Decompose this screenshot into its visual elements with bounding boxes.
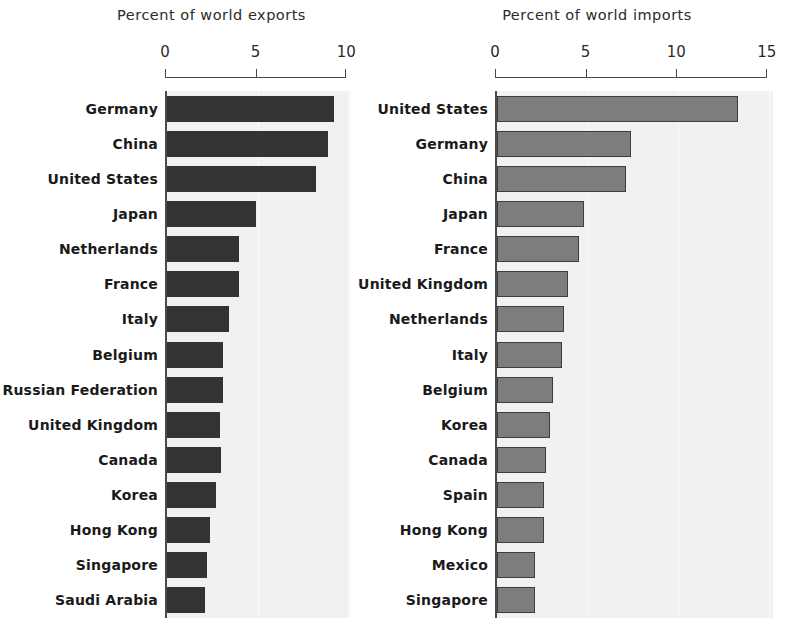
- bar-row: Singapore: [497, 587, 773, 613]
- imports-tick-label-10: 10: [667, 43, 686, 61]
- category-label: Russian Federation: [2, 382, 158, 398]
- exports-x-axis: 0510: [165, 69, 346, 91]
- category-label: France: [104, 276, 158, 292]
- bar-row: Italy: [167, 306, 350, 332]
- bar-row: France: [167, 271, 350, 297]
- imports-plot-area: United StatesGermanyChinaJapanFranceUnit…: [495, 91, 773, 618]
- imports-tick-label-15: 15: [757, 43, 776, 61]
- category-label: Belgium: [92, 347, 158, 363]
- category-label: Korea: [111, 487, 158, 503]
- imports-axis-line: [495, 77, 767, 78]
- bar-row: China: [167, 131, 350, 157]
- bar[interactable]: [167, 517, 210, 543]
- bar[interactable]: [497, 96, 738, 122]
- bar-row: United States: [167, 166, 350, 192]
- exports-chart-title: Percent of world exports: [0, 7, 395, 23]
- bar-row: Japan: [167, 201, 350, 227]
- category-label: Japan: [443, 206, 488, 222]
- bar-row: United Kingdom: [167, 412, 350, 438]
- bar[interactable]: [497, 412, 550, 438]
- bar[interactable]: [167, 306, 229, 332]
- bar[interactable]: [497, 236, 579, 262]
- exports-tick-mark-0: [165, 69, 166, 78]
- imports-x-axis: 051015: [495, 69, 767, 91]
- category-label: Canada: [98, 452, 158, 468]
- bar[interactable]: [167, 131, 328, 157]
- bar-row: Italy: [497, 342, 773, 368]
- category-label: Saudi Arabia: [55, 592, 158, 608]
- exports-tick-label-0: 0: [160, 43, 170, 61]
- bar-row: Spain: [497, 482, 773, 508]
- category-label: United Kingdom: [28, 417, 158, 433]
- bar-row: Saudi Arabia: [167, 587, 350, 613]
- bar[interactable]: [167, 236, 239, 262]
- bar-row: Netherlands: [167, 236, 350, 262]
- category-label: France: [434, 241, 488, 257]
- bar-row: France: [497, 236, 773, 262]
- imports-tick-mark-15: [766, 69, 767, 78]
- bar-row: Germany: [497, 131, 773, 157]
- exports-panel: Percent of world exports 0510 GermanyChi…: [0, 0, 395, 629]
- exports-tick-mark-5: [256, 69, 257, 78]
- category-label: Italy: [122, 311, 158, 327]
- category-label: Belgium: [422, 382, 488, 398]
- bar[interactable]: [167, 342, 223, 368]
- category-label: Netherlands: [389, 311, 488, 327]
- bar-row: China: [497, 166, 773, 192]
- exports-tick-label-10: 10: [337, 43, 356, 61]
- bar-row: Korea: [497, 412, 773, 438]
- bar-row: Germany: [167, 96, 350, 122]
- category-label: Netherlands: [59, 241, 158, 257]
- category-label: Japan: [113, 206, 158, 222]
- bar[interactable]: [497, 166, 626, 192]
- bar-row: Hong Kong: [167, 517, 350, 543]
- bar-row: Singapore: [167, 552, 350, 578]
- bar[interactable]: [167, 271, 239, 297]
- bar-row: Canada: [167, 447, 350, 473]
- category-label: Germany: [416, 136, 488, 152]
- bar[interactable]: [497, 342, 562, 368]
- bar[interactable]: [167, 377, 223, 403]
- bar[interactable]: [167, 412, 220, 438]
- bar[interactable]: [497, 447, 546, 473]
- bar[interactable]: [497, 306, 564, 332]
- exports-tick-mark-10: [345, 69, 346, 78]
- category-label: Hong Kong: [400, 522, 488, 538]
- imports-chart-title: Percent of world imports: [395, 7, 789, 23]
- imports-tick-mark-10: [676, 69, 677, 78]
- bar[interactable]: [167, 96, 334, 122]
- bar[interactable]: [167, 166, 316, 192]
- bar-row: Belgium: [167, 342, 350, 368]
- bar[interactable]: [167, 587, 205, 613]
- bar-row: Hong Kong: [497, 517, 773, 543]
- imports-tick-mark-0: [495, 69, 496, 78]
- category-label: Germany: [86, 101, 158, 117]
- imports-tick-label-0: 0: [490, 43, 500, 61]
- bar[interactable]: [497, 377, 553, 403]
- bar-row: Belgium: [497, 377, 773, 403]
- bar-row: Netherlands: [497, 306, 773, 332]
- bar-row: Russian Federation: [167, 377, 350, 403]
- bar[interactable]: [167, 482, 216, 508]
- imports-panel: Percent of world imports 051015 United S…: [395, 0, 789, 629]
- bar[interactable]: [497, 587, 535, 613]
- bar[interactable]: [497, 201, 584, 227]
- bar[interactable]: [497, 131, 631, 157]
- bar-row: Japan: [497, 201, 773, 227]
- bar-row: United States: [497, 96, 773, 122]
- bar[interactable]: [497, 517, 544, 543]
- bar-row: Korea: [167, 482, 350, 508]
- bar[interactable]: [167, 201, 256, 227]
- exports-plot-area: GermanyChinaUnited StatesJapanNetherland…: [165, 91, 350, 618]
- bar[interactable]: [497, 482, 544, 508]
- bar[interactable]: [497, 271, 568, 297]
- bar[interactable]: [167, 447, 221, 473]
- category-label: Mexico: [432, 557, 488, 573]
- bar-row: United Kingdom: [497, 271, 773, 297]
- bar[interactable]: [497, 552, 535, 578]
- bar[interactable]: [167, 552, 207, 578]
- category-label: Spain: [443, 487, 488, 503]
- category-label: Singapore: [76, 557, 158, 573]
- category-label: Italy: [452, 347, 488, 363]
- bar-row: Canada: [497, 447, 773, 473]
